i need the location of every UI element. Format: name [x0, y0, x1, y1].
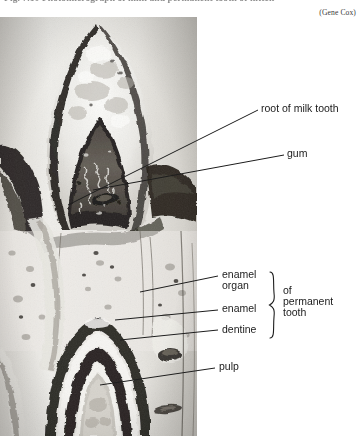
- label-gum: gum: [287, 148, 307, 160]
- figure-caption: Fig. 7.10 Photomicrograph of milk and pe…: [4, 0, 274, 3]
- figure-page: Fig. 7.10 Photomicrograph of milk and pe…: [0, 0, 362, 436]
- photomicrograph: [0, 17, 197, 436]
- label-enamel-organ-line2: organ: [222, 280, 249, 292]
- photo-credit: (Gene Cox): [319, 8, 356, 17]
- label-dentine: dentine: [222, 324, 256, 336]
- figure-caption-clip: Fig. 7.10 Photomicrograph of milk and pe…: [0, 0, 362, 9]
- label-pulp: pulp: [219, 361, 239, 373]
- group-brace: [270, 272, 275, 338]
- tooth-section-image: [0, 17, 197, 436]
- brace-label-line3: tooth: [283, 307, 306, 319]
- label-enamel: enamel: [222, 303, 256, 315]
- label-root-of-milk-tooth: root of milk tooth: [261, 103, 339, 115]
